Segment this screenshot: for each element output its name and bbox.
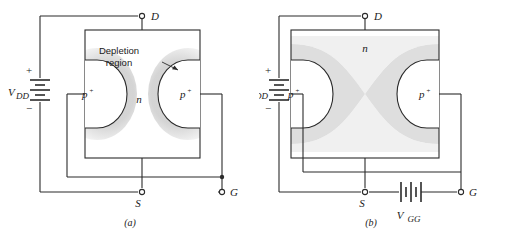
gate-junction-dot-a [220,175,224,179]
terminal-drain-a[interactable] [139,13,144,18]
label-vdd-a: V [8,86,16,98]
terminal-source-b[interactable] [362,189,367,194]
caption-a: (a) [124,217,136,229]
figure-root: D S G V DD + − p + p + n Depletion regio… [0,0,518,233]
caption-b: (b) [365,217,377,229]
vgg-battery-b [401,182,421,202]
label-vgg-b: V [397,209,405,221]
label-source-a: S [135,197,141,209]
label-p-left-sup-b: + [295,87,300,95]
label-gate-a: G [230,186,238,198]
label-p-right-a: p [179,88,186,100]
label-vdd-sub-b: DD [259,91,268,101]
label-p-right-b: p [418,88,425,100]
panel-a: D S G V DD + − p + p + n Depletion regio… [0,0,259,233]
vdd-battery-a [30,80,50,100]
label-vgg-sub-b: GG [408,214,421,224]
label-channel-n-b: n [362,42,368,54]
annotation-line2-a: region [106,57,132,68]
terminal-drain-b[interactable] [362,13,367,18]
terminal-source-a[interactable] [139,189,144,194]
label-vdd-minus-b: − [265,102,271,114]
label-vdd-minus-a: − [26,102,32,114]
label-source-b: S [359,197,365,209]
label-drain-a: D [150,10,159,22]
label-p-left-sup-a: + [89,87,94,95]
annotation-line1-a: Depletion [99,45,139,56]
label-p-left-b: p [287,88,294,100]
label-vdd-sub-a: DD [15,91,29,101]
label-vdd-plus-a: + [26,64,32,76]
label-p-right-sup-a: + [187,87,192,95]
terminal-gate-b[interactable] [458,189,463,194]
panel-a-svg: D S G V DD + − p + p + n Depletion regio… [0,0,259,233]
vdd-battery-b [269,80,289,100]
label-gate-b: G [469,186,477,198]
label-vdd-plus-b: + [265,64,271,76]
label-drain-b: D [373,10,382,22]
panel-b: D S G V DD + − V GG p + p + n (b) [259,0,518,233]
label-channel-n-a: n [136,93,142,105]
label-p-right-sup-b: + [426,87,431,95]
terminal-gate-a[interactable] [219,189,224,194]
label-p-left-a: p [81,88,88,100]
panel-b-svg: D S G V DD + − V GG p + p + n (b) [259,0,518,233]
